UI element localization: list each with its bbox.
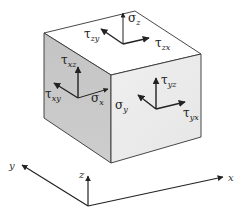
stress-element-diagram: σz τzy τzx τxz τxy σx τyz σy τyx (0, 0, 245, 221)
z-axis-label: z (78, 169, 85, 180)
diagram-canvas: σz τzy τzx τxz τxy σx τyz σy τyx (0, 0, 245, 221)
coordinate-axes (22, 165, 223, 206)
y-axis-label: y (8, 160, 15, 171)
x-axis-label: x (228, 172, 234, 183)
x-axis (88, 177, 223, 206)
